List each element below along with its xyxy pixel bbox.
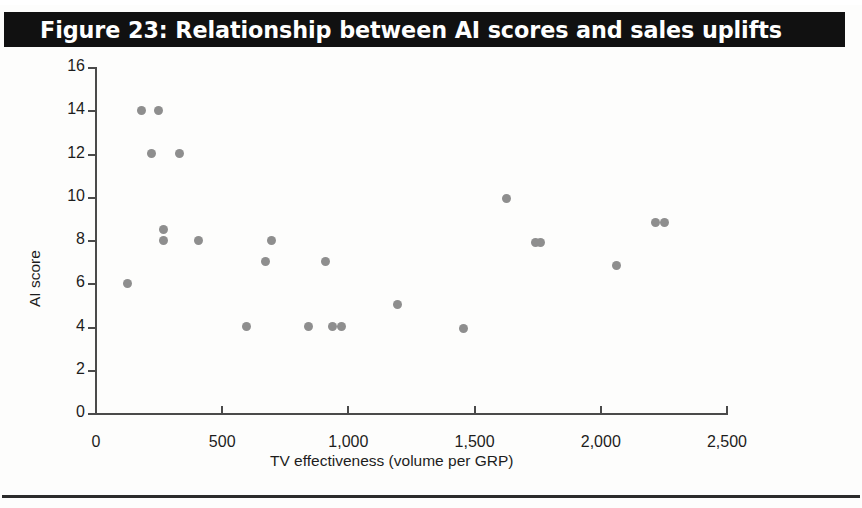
x-axis-tick-label: 1,000 bbox=[307, 433, 389, 451]
scatter-point bbox=[175, 149, 184, 158]
scatter-point bbox=[321, 257, 330, 266]
figure-title: Figure 23: Relationship between AI score… bbox=[40, 17, 782, 43]
x-axis-tick-label: 2,500 bbox=[686, 433, 768, 451]
y-axis-tick bbox=[88, 154, 96, 156]
x-axis-tick bbox=[95, 406, 97, 415]
x-axis-tick-label: 500 bbox=[181, 433, 263, 451]
scatter-point bbox=[459, 324, 468, 333]
x-axis-tick bbox=[726, 406, 728, 415]
figure-title-band: Figure 23: Relationship between AI score… bbox=[4, 12, 845, 47]
scatter-point bbox=[154, 106, 163, 115]
scatter-point bbox=[194, 236, 203, 245]
y-axis-tick bbox=[88, 327, 96, 329]
y-axis-tick-label: 0 bbox=[45, 403, 85, 421]
scatter-point bbox=[137, 106, 146, 115]
y-axis-tick-label: 8 bbox=[45, 230, 85, 248]
x-axis-title: TV effectiveness (volume per GRP) bbox=[270, 452, 514, 470]
scatter-point bbox=[123, 279, 132, 288]
figure-container: Figure 23: Relationship between AI score… bbox=[0, 0, 862, 508]
scatter-plot: 024681012141605001,0001,5002,0002,500 AI… bbox=[0, 47, 862, 467]
y-axis-title: AI score bbox=[26, 250, 44, 307]
scatter-point bbox=[337, 322, 346, 331]
x-axis-tick-label: 1,500 bbox=[434, 433, 516, 451]
x-axis-tick bbox=[347, 406, 349, 415]
y-axis-tick-label: 4 bbox=[45, 317, 85, 335]
x-axis-line bbox=[95, 413, 728, 415]
scatter-point bbox=[536, 238, 545, 247]
y-axis-tick-label: 2 bbox=[45, 360, 85, 378]
page-top-edge bbox=[0, 0, 862, 5]
y-axis-tick bbox=[88, 283, 96, 285]
y-axis-tick bbox=[88, 197, 96, 199]
y-axis-tick-label: 16 bbox=[45, 57, 85, 75]
scatter-point bbox=[159, 236, 168, 245]
y-axis-tick bbox=[88, 67, 96, 69]
scatter-point bbox=[267, 236, 276, 245]
scatter-point bbox=[159, 225, 168, 234]
scatter-point bbox=[612, 261, 621, 270]
scatter-point bbox=[147, 149, 156, 158]
x-axis-tick bbox=[474, 406, 476, 415]
bottom-divider-rule bbox=[2, 495, 860, 498]
y-axis-tick bbox=[88, 110, 96, 112]
y-axis-tick-label: 14 bbox=[45, 100, 85, 118]
scatter-point bbox=[502, 194, 511, 203]
x-axis-tick-label: 2,000 bbox=[560, 433, 642, 451]
x-axis-tick bbox=[221, 406, 223, 415]
y-axis-tick bbox=[88, 370, 96, 372]
scatter-point bbox=[660, 218, 669, 227]
y-axis-tick-label: 10 bbox=[45, 187, 85, 205]
scatter-point bbox=[651, 218, 660, 227]
y-axis-tick-label: 6 bbox=[45, 273, 85, 291]
scatter-point bbox=[261, 257, 270, 266]
scatter-point bbox=[328, 322, 337, 331]
y-axis-tick bbox=[88, 240, 96, 242]
scatter-point bbox=[242, 322, 251, 331]
x-axis-tick-label: 0 bbox=[55, 433, 137, 451]
scatter-point bbox=[393, 300, 402, 309]
scatter-point bbox=[304, 322, 313, 331]
y-axis-tick-label: 12 bbox=[45, 144, 85, 162]
x-axis-tick bbox=[600, 406, 602, 415]
